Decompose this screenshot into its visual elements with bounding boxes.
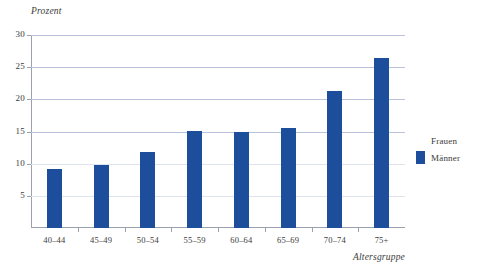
x-tick-label: 55–59	[172, 235, 218, 245]
bar-chart-figure: Prozent 51015202530 40–4445–4950–5455–59…	[0, 0, 483, 271]
legend-label: Frauen	[431, 136, 457, 146]
bar	[374, 58, 389, 228]
x-tick-mark	[358, 228, 359, 232]
y-tick-label: 15	[3, 126, 25, 136]
x-tick-mark	[312, 228, 313, 232]
bar	[327, 91, 342, 228]
bars-layer	[31, 35, 405, 228]
legend-item[interactable]: Frauen	[416, 132, 480, 149]
bar	[94, 165, 109, 228]
legend-label: Männer	[431, 153, 460, 163]
legend-swatch-icon	[416, 151, 425, 164]
bar	[187, 131, 202, 228]
y-axis-title: Prozent	[31, 6, 62, 16]
x-tick-mark	[125, 228, 126, 232]
legend: FrauenMänner	[416, 132, 480, 166]
x-tick-label: 50–54	[125, 235, 171, 245]
x-tick-label: 45–49	[78, 235, 124, 245]
bar	[47, 169, 62, 228]
y-tick-label: 10	[3, 158, 25, 168]
bar	[281, 128, 296, 228]
x-tick-mark	[171, 228, 172, 232]
legend-item[interactable]: Männer	[416, 149, 480, 166]
x-tick-mark	[78, 228, 79, 232]
bar	[234, 132, 249, 228]
x-axis-title: Altersgruppe	[353, 252, 405, 262]
x-tick-mark	[265, 228, 266, 232]
x-tick-label: 70–74	[312, 235, 358, 245]
x-tick-label: 60–64	[218, 235, 264, 245]
x-tick-mark	[218, 228, 219, 232]
bar	[140, 152, 155, 228]
y-tick-label: 30	[3, 29, 25, 39]
y-tick-label: 5	[3, 190, 25, 200]
y-tick-label: 25	[3, 61, 25, 71]
x-tick-label: 75+	[359, 235, 405, 245]
x-tick-label: 65–69	[265, 235, 311, 245]
y-tick-label: 20	[3, 93, 25, 103]
legend-swatch-icon	[416, 134, 425, 147]
x-tick-label: 40–44	[31, 235, 77, 245]
